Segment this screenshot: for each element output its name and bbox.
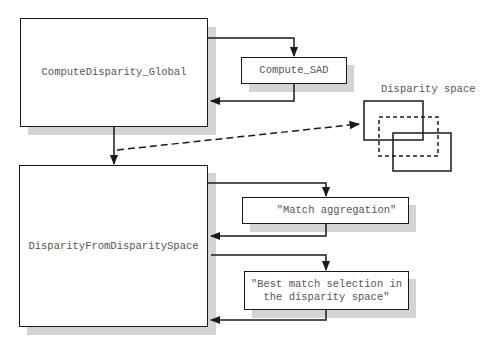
call-arrow-best-match: [211, 255, 326, 270]
disparity-plane-3: [393, 133, 451, 171]
dashed-arrow-disparity-space: [117, 124, 359, 150]
disparity-plane-2-dashed: [379, 117, 438, 156]
return-arrow-best-match: [211, 310, 326, 320]
connectors: [0, 0, 484, 349]
call-arrow-compute-sad: [208, 38, 294, 56]
call-arrow-match-aggregation: [208, 183, 326, 196]
return-arrow-compute-sad: [211, 84, 294, 101]
return-arrow-match-aggregation: [211, 224, 326, 236]
